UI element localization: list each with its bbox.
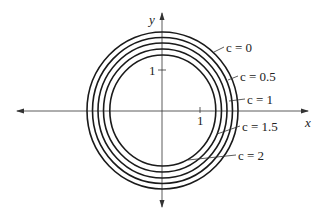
leader-c-2 bbox=[188, 155, 236, 160]
y-axis-label: y bbox=[149, 13, 155, 26]
level-curves-diagram: y x 1 1 c = 0 c = 0.5 c = 1 c = 1.5 c = … bbox=[0, 0, 325, 218]
label-c-2: c = 2 bbox=[238, 149, 264, 162]
label-c-1: c = 1 bbox=[247, 93, 273, 106]
y-tick-label: 1 bbox=[149, 64, 156, 77]
curve-c-0.5 bbox=[93, 38, 233, 184]
diagram-canvas bbox=[0, 0, 325, 218]
label-c-0: c = 0 bbox=[226, 41, 252, 54]
x-axis-label: x bbox=[305, 116, 311, 129]
leader-c-0 bbox=[214, 47, 224, 52]
curve-c-1.5 bbox=[104, 49, 222, 172]
label-c-0.5: c = 0.5 bbox=[240, 70, 276, 83]
leader-c-0.5 bbox=[228, 76, 238, 80]
label-c-1.5: c = 1.5 bbox=[242, 120, 278, 133]
x-tick-label: 1 bbox=[197, 114, 204, 127]
